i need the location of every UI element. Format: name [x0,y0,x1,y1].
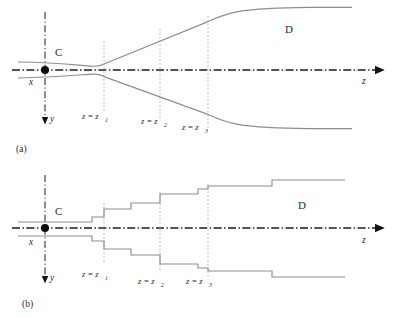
svg-text:z = z: z = z [181,122,199,132]
region-label-c-a: C [55,46,62,58]
region-label-d-a: D [285,23,293,35]
axis-label-z-a: z [361,76,366,86]
svg-text:z = z: z = z [81,269,99,279]
svg-text:z = z: z = z [185,276,203,286]
svg-text:3: 3 [208,282,212,288]
svg-text:1: 1 [105,275,108,281]
panel-caption-a: (a) [16,144,27,155]
svg-text:z = z: z = z [140,116,158,126]
svg-text:z = z: z = z [81,111,99,121]
axis-label-x-b: x [28,237,34,247]
axis-label-y-b: y [49,273,55,283]
svg-text:3: 3 [204,128,208,134]
waveguide-figure: C D z y x z = z 1 z = z 2 z = z 3 (a) [0,0,393,317]
panel-caption-b: (b) [22,299,33,310]
axis-label-x-a: x [28,77,34,87]
region-label-c-b: C [55,205,62,217]
origin-dot-a [41,66,49,74]
svg-text:2: 2 [161,282,164,288]
region-label-d-b: D [298,199,306,211]
axis-label-z-b: z [361,235,366,245]
axis-label-y-a: y [49,114,55,124]
origin-dot-b [41,224,49,232]
svg-text:1: 1 [105,117,108,123]
svg-text:z = z: z = z [137,276,155,286]
svg-text:2: 2 [164,122,167,128]
